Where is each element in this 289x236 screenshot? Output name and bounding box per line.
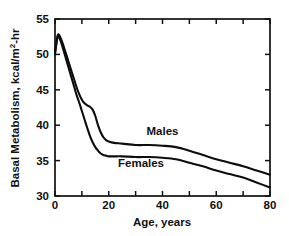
plot-frame: [55, 19, 270, 196]
y-tick-label: 45: [36, 84, 49, 96]
y-tick-label: 40: [36, 119, 49, 131]
y-axis-title-prefix: Basal Metabolism, kcal/m: [9, 48, 21, 187]
y-axis-title-suffix: -hr: [9, 28, 21, 44]
x-tick-label: 80: [264, 199, 277, 211]
y-tick-label: 50: [36, 48, 49, 60]
x-axis-title: Age, years: [133, 216, 191, 228]
chart-canvas: 020406080 303540455055 MalesFemales Age,…: [0, 0, 289, 236]
series-label-females: Females: [118, 157, 164, 169]
y-tick-label: 30: [36, 190, 49, 202]
x-tick-label: 0: [52, 199, 58, 211]
x-tick-label: 20: [102, 199, 115, 211]
y-tick-label: 55: [36, 13, 49, 25]
basal-metabolism-chart: 020406080 303540455055 MalesFemales Age,…: [0, 0, 289, 236]
x-axis-tick-labels: 020406080: [52, 199, 277, 211]
y-axis-title: Basal Metabolism, kcal/m2-hr: [8, 28, 21, 188]
x-tick-label: 60: [210, 199, 223, 211]
y-tick-label: 35: [36, 155, 49, 167]
x-tick-label: 40: [156, 199, 169, 211]
series-label-males: Males: [147, 125, 179, 137]
y-axis-tick-labels: 303540455055: [36, 13, 49, 202]
series-line-males: [55, 34, 270, 174]
